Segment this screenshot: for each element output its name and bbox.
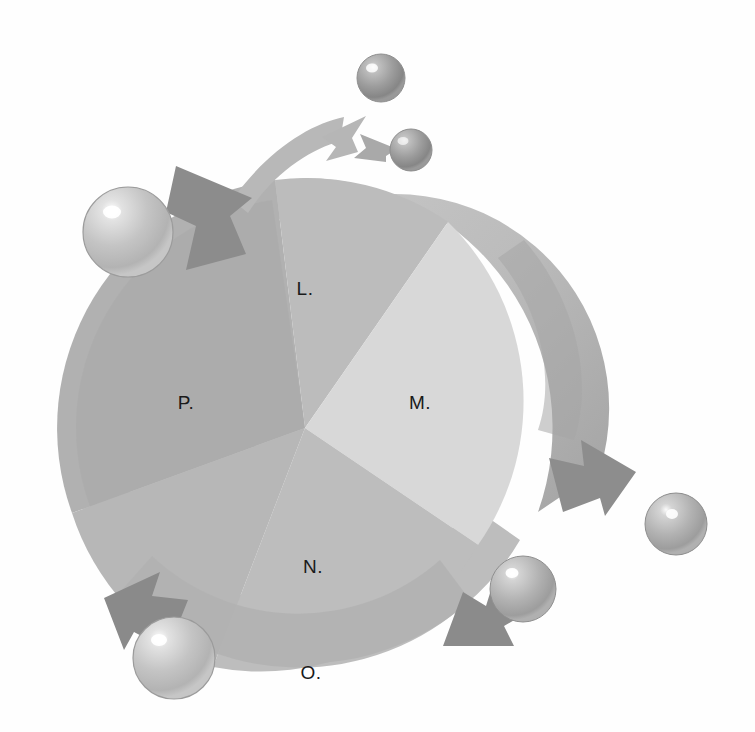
cycle-diagram: L. M. N. O. P. [0, 0, 755, 732]
sphere-upper-left [83, 187, 173, 277]
slice-label-P: P. [178, 392, 195, 413]
sphere-highlight [103, 206, 121, 219]
slice-label-M: M. [409, 392, 431, 413]
sphere-highlight [366, 64, 378, 73]
sphere-bottom-left [133, 617, 215, 699]
sphere-highlight [506, 568, 519, 578]
sphere-right [645, 493, 707, 555]
slice-label-O: O. [300, 662, 321, 683]
sphere-top-right [390, 129, 432, 171]
sphere-highlight [398, 137, 409, 145]
slice-label-L: L. [297, 278, 314, 299]
sphere-highlight [666, 509, 678, 519]
slice-label-N: N. [303, 556, 323, 577]
sphere-lower-right [490, 556, 556, 622]
sphere-highlight [151, 634, 167, 646]
sphere-top [357, 54, 405, 102]
figure-canvas: L. M. N. O. P. [0, 0, 755, 732]
